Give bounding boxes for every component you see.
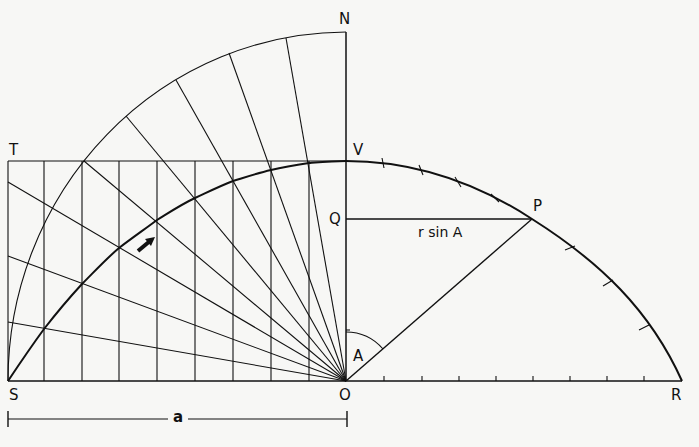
label-A: A — [353, 349, 363, 364]
label-P: P — [533, 199, 542, 214]
label-T: T — [9, 143, 18, 158]
label-R: R — [671, 388, 681, 403]
curve-ticks — [382, 158, 649, 330]
left-curve-SV — [8, 161, 346, 381]
label-rsinA: r sin A — [418, 225, 462, 239]
radial-lines — [8, 38, 346, 381]
angle-arc-A — [346, 332, 383, 349]
line-OP — [346, 219, 532, 381]
arrow-icon — [138, 237, 155, 251]
construction-diagram — [0, 0, 699, 447]
label-V: V — [353, 143, 363, 158]
label-Q: Q — [329, 212, 341, 227]
outer-quarter-arc — [8, 32, 346, 381]
right-curve-VR — [346, 161, 682, 381]
label-S: S — [9, 388, 19, 403]
label-O: O — [339, 388, 351, 403]
label-N: N — [339, 12, 350, 27]
label-a: a — [173, 410, 183, 425]
